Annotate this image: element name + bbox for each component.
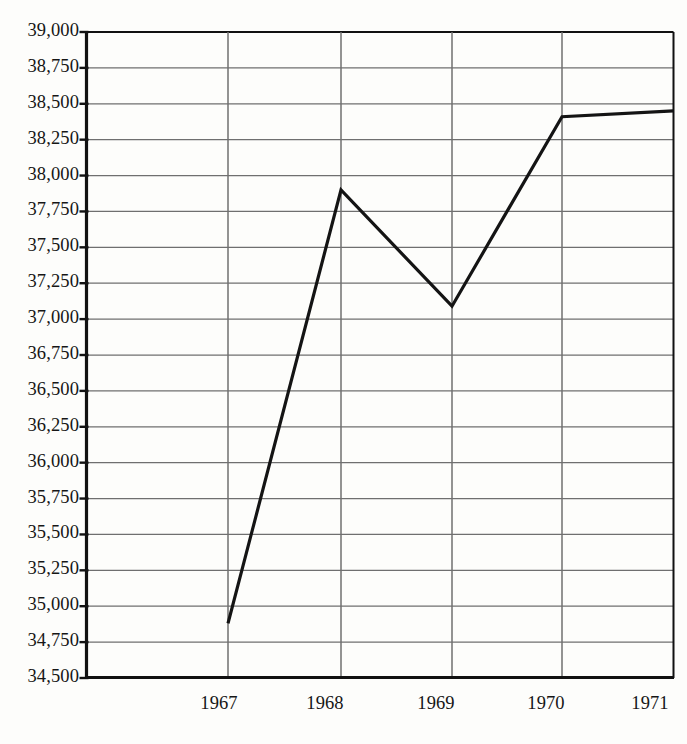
line-chart: 39,00038,75038,50038,25038,00037,75037,5… — [0, 0, 687, 744]
y-axis-tick-label: 36,250 — [28, 415, 79, 436]
y-axis-tick-label: 38,750 — [28, 56, 79, 77]
y-axis-tick-label: 34,750 — [28, 630, 79, 651]
y-axis-tick-label: 36,000 — [28, 451, 79, 472]
data-series-line — [228, 111, 674, 623]
y-axis-tick-label: 38,250 — [28, 128, 79, 149]
y-axis-tick-label: 36,750 — [28, 343, 79, 364]
y-axis-tick-label: 36,500 — [28, 379, 79, 400]
x-axis-tick-label: 1971 — [590, 693, 687, 714]
x-axis-tick-label: 1967 — [159, 693, 279, 714]
y-axis-tick-label: 35,250 — [28, 558, 79, 579]
y-axis-tick-label: 34,500 — [28, 666, 79, 687]
y-axis-tick-label: 35,500 — [28, 522, 79, 543]
x-axis-tick-label: 1968 — [265, 693, 385, 714]
horizontal-gridlines — [87, 32, 674, 678]
y-axis-tick-label: 37,500 — [28, 235, 79, 256]
y-axis-tick-label: 39,000 — [28, 20, 79, 41]
chart-plot-area — [0, 0, 687, 744]
y-axis-tick-label: 37,750 — [28, 199, 79, 220]
y-axis-tick-label: 38,500 — [28, 92, 79, 113]
y-axis-tick-label: 37,250 — [28, 271, 79, 292]
y-axis-tick-label: 38,000 — [28, 164, 79, 185]
x-axis-tick-label: 1970 — [486, 693, 606, 714]
y-axis-tick-label: 35,000 — [28, 594, 79, 615]
y-axis-tick-label: 35,750 — [28, 487, 79, 508]
y-axis-tick-label: 37,000 — [28, 307, 79, 328]
x-axis-tick-label: 1969 — [376, 693, 496, 714]
